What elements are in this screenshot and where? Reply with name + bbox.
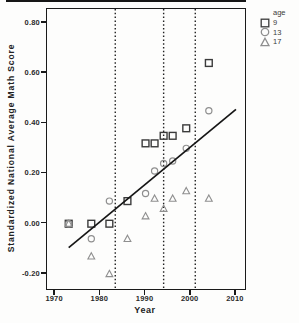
- data-point-square: [142, 140, 149, 147]
- circle-marker-icon: [260, 27, 271, 37]
- x-axis-tick-mark: [53, 290, 55, 295]
- data-point-triangle: [142, 213, 149, 219]
- data-point-square: [169, 132, 176, 139]
- data-point-triangle: [160, 205, 167, 211]
- y-axis-tick-label: 0.20: [8, 168, 40, 177]
- x-axis-tick-label: 1990: [136, 294, 154, 303]
- data-point-triangle: [106, 270, 113, 276]
- x-axis-tick-mark: [189, 290, 191, 295]
- x-axis-tick-mark: [234, 290, 236, 295]
- y-axis-tick-mark: [41, 21, 46, 23]
- data-point-triangle: [88, 253, 95, 259]
- data-point-circle: [151, 168, 157, 174]
- y-axis-tick-mark: [41, 71, 46, 73]
- x-axis-tick-mark: [99, 290, 101, 295]
- data-point-circle: [142, 190, 148, 196]
- figure-top-rule: [6, 0, 246, 2]
- data-point-circle: [106, 198, 112, 204]
- x-axis-tick-label: 1970: [45, 294, 63, 303]
- y-axis-tick-label: 0.60: [8, 68, 40, 77]
- y-axis-tick-label: 0.40: [8, 118, 40, 127]
- x-axis-tick-label: 1980: [91, 294, 109, 303]
- legend-item-label: 9: [273, 18, 277, 27]
- data-point-square: [183, 125, 190, 132]
- y-axis-tick-label: 0.80: [8, 17, 40, 26]
- x-axis-tick-mark: [144, 290, 146, 295]
- legend-item: 17: [260, 37, 286, 47]
- y-axis-tick-mark: [41, 122, 46, 124]
- plot-area: [46, 8, 246, 290]
- data-point-circle: [206, 108, 212, 114]
- y-axis-tick-label: -0.20: [8, 268, 40, 277]
- trend-line: [69, 109, 236, 247]
- data-point-square: [205, 60, 212, 67]
- legend-item: 9: [260, 18, 286, 28]
- x-axis-tick-label: 2010: [226, 294, 244, 303]
- legend-item-label: 17: [273, 37, 281, 46]
- scatter-svg: [47, 9, 245, 289]
- y-axis-tick-mark: [41, 272, 46, 274]
- y-axis-tick-label: 0.00: [8, 218, 40, 227]
- data-point-triangle: [151, 195, 158, 201]
- data-point-triangle: [183, 187, 190, 193]
- square-marker-icon: [260, 18, 271, 28]
- data-point-triangle: [205, 195, 212, 201]
- y-axis-tick-mark: [41, 222, 46, 224]
- x-axis-title: Year: [134, 305, 155, 315]
- data-point-square: [106, 220, 113, 227]
- triangle-marker-icon: [260, 37, 271, 47]
- legend-item: 13: [260, 28, 286, 38]
- x-axis-tick-label: 2000: [181, 294, 199, 303]
- data-point-triangle: [169, 195, 176, 201]
- y-axis-tick-mark: [41, 172, 46, 174]
- data-point-square: [151, 140, 158, 147]
- legend: age 91317: [260, 8, 286, 47]
- data-point-circle: [88, 236, 94, 242]
- scatter-plot-figure: Standardized National Average Math Score…: [0, 0, 299, 323]
- legend-title: age: [273, 8, 286, 17]
- legend-item-label: 13: [273, 28, 281, 37]
- data-point-triangle: [124, 235, 131, 241]
